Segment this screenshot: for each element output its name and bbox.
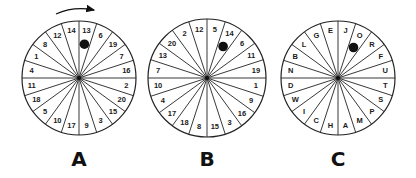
segment-label: 13 [159,51,167,60]
segment-label: 6 [240,39,244,48]
segment-label: L [302,40,307,49]
segment-label: 17 [168,109,176,118]
wheel-hub [205,76,209,80]
segment-label: 3 [227,118,231,127]
wheel-c: JORFUTSPMAHCIWDNBLGEC [281,21,395,171]
segment-label: J [343,26,347,35]
segment-label: 9 [84,121,88,130]
segment-label: W [292,95,300,104]
segment-label: D [288,81,294,90]
segment-label: O [357,31,363,40]
segment-label: U [383,66,388,75]
segment-label: E [328,26,333,35]
segment-label: T [383,81,388,90]
segment-label: 13 [82,26,90,35]
segment-label: 20 [168,39,176,48]
segment-label: 16 [238,109,246,118]
wheel-label-a: A [71,147,87,171]
segment-label: 8 [197,122,201,131]
segment-label: G [313,31,319,40]
segment-label: 19 [109,40,117,49]
segment-label: C [314,116,320,125]
segment-label: 9 [249,96,253,105]
segment-label: 7 [156,66,160,75]
segment-label: 10 [53,116,61,125]
segment-label: S [378,95,383,104]
segment-label: 15 [211,122,219,131]
segment-label: I [303,107,305,116]
segment-label: B [293,52,299,61]
wheel-a: 1361971622015391710518114181214A [22,21,136,171]
segment-label: 7 [120,52,124,61]
segment-label: 18 [180,118,188,127]
segment-label: 3 [99,116,103,125]
segment-label: 14 [225,29,234,38]
segment-label: 18 [32,95,40,104]
wheel-b: 5146111919163158181741071320212B [148,19,266,171]
segment-label: 6 [99,31,103,40]
segment-label: 12 [195,25,203,34]
wheel-diagram: 1361971622015391710518114181214A51461119… [0,0,416,178]
segment-label: H [328,121,333,130]
segment-label: 20 [118,95,126,104]
marker-dot [80,39,90,49]
segment-label: 12 [53,31,61,40]
marker-dot [218,42,228,52]
segment-label: 1 [34,52,38,61]
segment-label: 11 [247,51,255,60]
segment-label: P [369,107,374,116]
segment-label: 10 [154,81,162,90]
wheel-hub [77,76,81,80]
segment-label: A [343,121,349,130]
segment-label: 2 [124,81,128,90]
segment-label: N [288,66,293,75]
segment-label: 19 [252,66,260,75]
segment-label: M [357,116,363,125]
marker-dot [349,43,359,53]
segment-label: 5 [213,25,217,34]
segment-label: 14 [67,26,76,35]
segment-label: 15 [109,107,117,116]
wheel-hub [336,76,340,80]
wheel-label-c: C [331,147,346,171]
clockwise-arrow-icon [56,9,94,14]
segment-label: 17 [67,121,75,130]
segment-label: 1 [254,81,258,90]
segment-label: R [369,40,375,49]
wheel-label-b: B [199,147,214,171]
segment-label: 8 [43,40,47,49]
segment-label: F [378,52,383,61]
segment-label: 16 [122,66,130,75]
segment-label: 2 [182,29,186,38]
segment-label: 11 [28,81,36,90]
segment-label: 5 [43,107,47,116]
